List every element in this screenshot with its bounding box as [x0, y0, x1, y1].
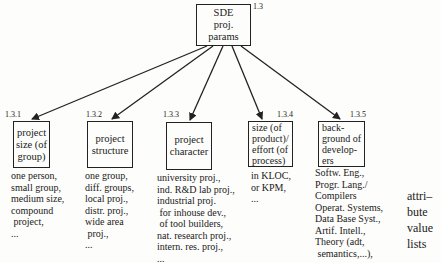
node-number: 1.3.5 — [350, 110, 366, 119]
root-node: SDE proj. params — [196, 4, 251, 46]
node-background-developers: back- ground of develop- ers — [318, 121, 365, 167]
node-number: 1.3.1 — [5, 110, 21, 119]
value-list: Softw. Eng., Progr. Lang./ Compilers Ope… — [315, 167, 383, 259]
legend-attribute-value-lists: attri– bute value lists — [407, 188, 433, 252]
node-project-size: project size (of group) — [13, 121, 50, 168]
node-size-effort: size (of product)/ effort (of process) — [248, 121, 293, 167]
value-list: university proj., ind. R&D lab proj., in… — [157, 172, 235, 263]
node-project-character: project character — [166, 122, 212, 170]
node-number: 1.3.2 — [86, 110, 102, 119]
node-number: 1.3.3 — [163, 110, 179, 119]
node-number: 1.3.4 — [277, 110, 293, 119]
root-number: 1.3 — [253, 2, 263, 11]
node-project-structure: project structure — [87, 121, 133, 168]
value-list: one group, diff. groups, local proj., di… — [85, 170, 134, 251]
value-list: one person, small group, medium size, co… — [11, 170, 64, 239]
value-list: in KLOC, or KPM, ... — [251, 170, 291, 205]
